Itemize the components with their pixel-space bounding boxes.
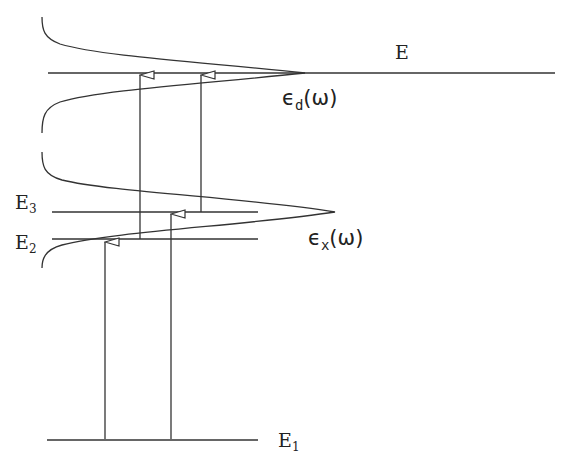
label-eps-x-arg: (ω) (329, 226, 363, 250)
label-e3-sub: 3 (29, 202, 37, 216)
label-e1-sub: 1 (292, 440, 300, 454)
label-eps-d-arg: (ω) (303, 86, 337, 110)
label-e1-main: E (278, 429, 292, 451)
energy-level-diagram: E E3 E2 E1 ϵd(ω) ϵx(ω) (0, 0, 569, 475)
label-e3-main: E (15, 191, 29, 213)
diagram-graphics (0, 0, 569, 475)
label-eps-d-main: ϵ (282, 86, 295, 110)
curve-eps-d (42, 17, 305, 133)
label-e2-main: E (15, 231, 29, 253)
label-eps-x: ϵx(ω) (308, 228, 363, 252)
label-e2-sub: 2 (29, 242, 37, 256)
label-e-text: E (395, 41, 409, 63)
label-e2: E2 (15, 233, 37, 255)
label-e1: E1 (278, 431, 300, 453)
label-e: E (395, 43, 409, 62)
label-eps-x-main: ϵ (308, 226, 321, 250)
curve-eps-x (42, 152, 335, 268)
label-e3: E3 (15, 193, 37, 215)
label-eps-d: ϵd(ω) (282, 88, 337, 112)
